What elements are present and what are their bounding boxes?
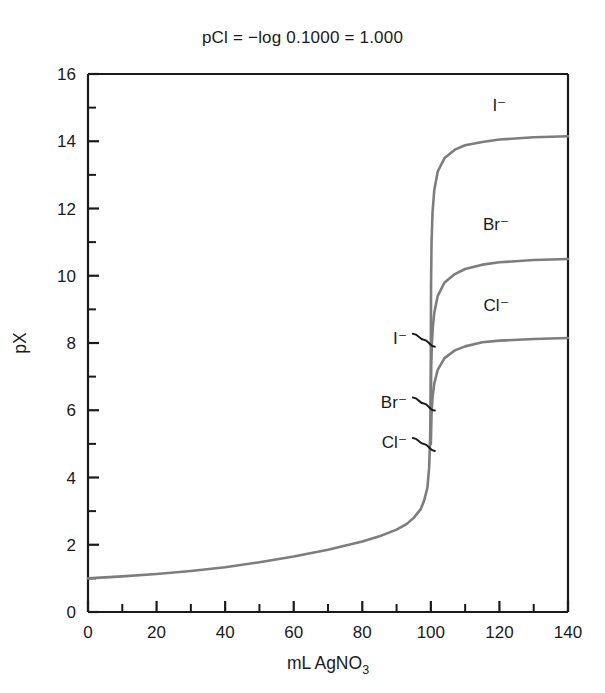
x-tick-label: 0 [83,623,92,642]
y-tick-label: 2 [67,536,76,555]
y-tick-label: 4 [67,469,76,488]
y-tick-label: 0 [67,603,76,622]
break-marker-label: Br⁻ [381,393,407,412]
y-tick-label: 12 [57,200,76,219]
curve-label: Cl⁻ [483,296,508,315]
tick-marks [88,74,568,612]
curve-brminus [431,259,568,404]
curve-label: Br⁻ [483,215,509,234]
plot-area: 0246810121416020406080100120140 I⁻Br⁻Cl⁻… [0,0,605,693]
curve-label: I⁻ [493,96,507,115]
y-tick-label: 14 [57,132,76,151]
series-labels: I⁻Br⁻Cl⁻ [483,96,509,315]
break-marker-label: I⁻ [393,329,407,348]
x-axis-label: mL AgNO3 [287,653,369,677]
break-markers: I⁻Br⁻Cl⁻ [381,329,435,452]
titration-curves [88,136,568,578]
y-tick-label: 10 [57,267,76,286]
curve-iminus [88,136,568,578]
y-tick-label: 16 [57,65,76,84]
y-tick-label: 6 [67,401,76,420]
chart-figure: pCl = −log 0.1000 = 1.000 02468101214160… [0,0,605,693]
x-tick-label: 120 [485,623,513,642]
x-tick-label: 40 [216,623,235,642]
x-tick-label: 80 [353,623,372,642]
x-tick-label: 60 [284,623,303,642]
y-tick-label: 8 [67,334,76,353]
x-tick-label: 140 [554,623,582,642]
tick-labels: 0246810121416020406080100120140 [57,65,582,642]
x-tick-label: 100 [417,623,445,642]
curve-clminus [431,338,568,444]
axes [88,74,568,612]
y-axis-label: pX [10,332,30,354]
break-marker-label: Cl⁻ [382,433,407,452]
x-tick-label: 20 [147,623,166,642]
axis-labels: pXmL AgNO3 [10,332,369,677]
